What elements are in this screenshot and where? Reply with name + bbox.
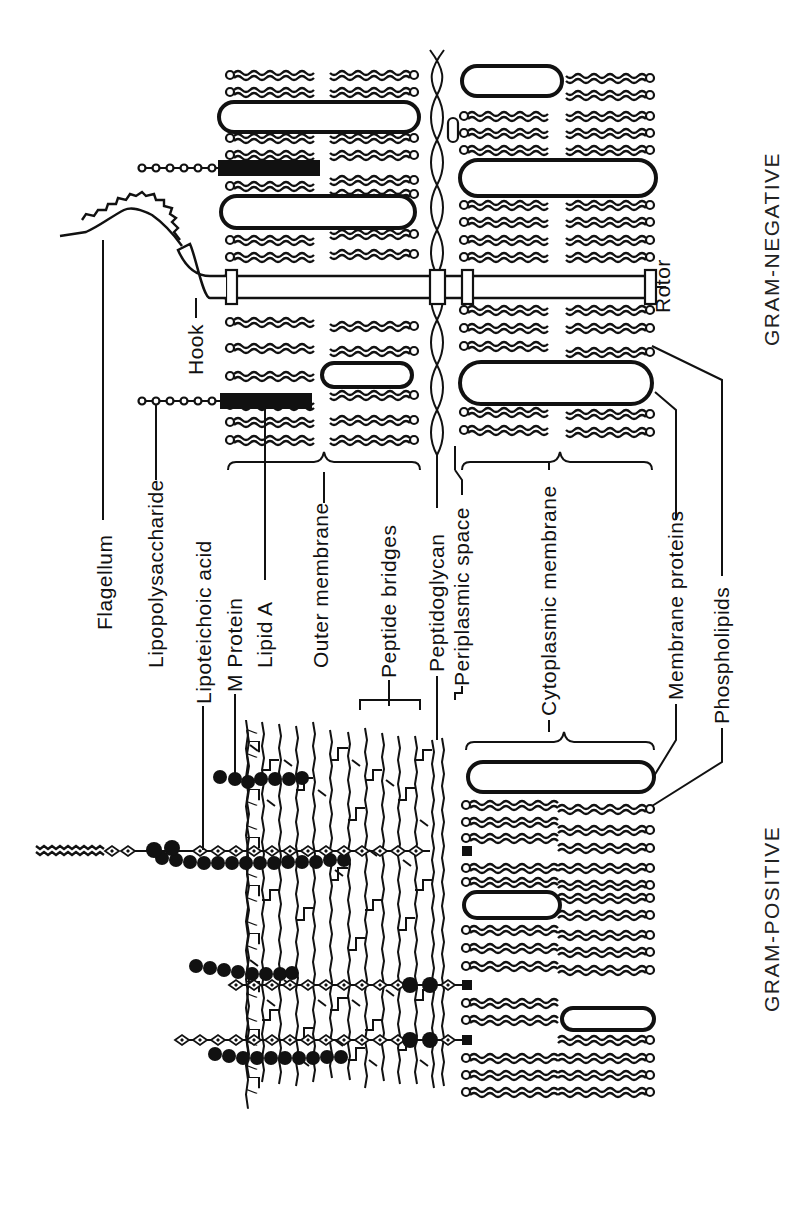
lipid-a-block [218,160,320,176]
membrane-protein [322,363,412,387]
teichoic-acid-chain [175,1032,472,1048]
label-cytoplasmic-membrane: Cytoplasmic membrane [537,485,560,716]
peptidoglycan-helix [430,50,444,455]
cytoplasmic-membrane-gn [460,66,656,470]
label-flagellum: Flagellum [93,534,116,630]
hook [178,244,226,298]
m-protein [208,1047,348,1065]
s-ring [462,270,473,304]
label-peptide-bridges: Peptide bridges [377,525,400,678]
label-lipid-a: Lipid A [253,601,276,668]
p-ring [430,270,445,304]
label-rotor: Rotor [651,259,674,313]
lipopolysaccharide-chain [139,398,221,405]
label-lipoteichoic-acid: Lipoteichoic acid [192,540,215,704]
periplasm-particle [448,118,458,142]
cytoplasmic-membrane-gp [462,732,654,1097]
m-protein [213,770,309,789]
label-periplasmic-space: Periplasmic space [450,507,473,686]
lipid-a-block [220,393,312,409]
label-outer-membrane: Outer membrane [309,502,332,668]
label-phospholipids: Phospholipids [710,587,733,724]
membrane-protein [460,160,656,196]
m-protein [189,959,299,981]
membrane-protein [462,66,562,96]
title-gram-positive: GRAM-POSITIVE [760,826,783,1012]
membrane-protein [460,362,652,404]
gram-negative-panel [60,50,656,470]
lipoteichoic-acid-chain [36,846,430,856]
membrane-protein [221,196,415,228]
label-lipopolysaccharide: Lipopolysaccharide [144,479,167,668]
label-peptidoglycan: Peptidoglycan [425,534,448,672]
label-membrane-proteins: Membrane proteins [664,511,687,700]
membrane-protein [468,762,654,792]
outer-membrane [139,71,421,470]
membrane-protein [562,1008,654,1030]
flagellum-filament [60,208,182,246]
gram-positive-panel [36,720,654,1109]
l-ring [226,270,237,304]
lipopolysaccharide-chain [139,165,219,172]
cell-wall-diagram: Flagellum Hook Rotor Lipopolysaccharide … [0,0,796,1208]
membrane-protein [464,892,560,918]
lipid-anchor [462,846,472,856]
membrane-protein [219,102,419,132]
title-gram-negative: GRAM-NEGATIVE [760,152,783,346]
label-hook: Hook [184,324,207,375]
label-m-protein: M Protein [223,598,246,692]
